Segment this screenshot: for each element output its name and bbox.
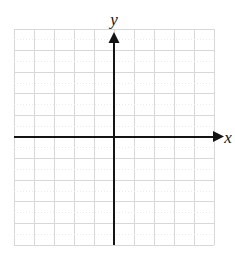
x-axis-label: x: [223, 128, 232, 147]
coordinate-plane-figure: y x: [0, 0, 235, 259]
figure-background: [0, 0, 235, 259]
coordinate-plane-svg: y x: [0, 0, 235, 259]
y-axis-label: y: [108, 10, 118, 29]
